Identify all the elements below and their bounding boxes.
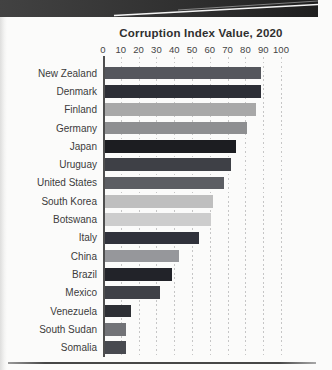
x-tick-label: 0 [100, 44, 105, 55]
category-label: South Korea [8, 196, 104, 207]
category-label: Denmark [8, 86, 104, 97]
bar [105, 140, 237, 153]
book-page: Corruption Index Value, 2020 01020304050… [0, 0, 332, 370]
bar [105, 232, 199, 245]
bar-track [104, 232, 324, 245]
bar-row: South Sudan [8, 320, 324, 338]
bar-row: New Zealand [8, 64, 324, 82]
bar-track [104, 250, 324, 263]
bar-track [104, 323, 324, 336]
bar [105, 158, 231, 171]
category-label: Brazil [8, 269, 104, 280]
category-label: China [8, 251, 104, 262]
category-label: Venezuela [8, 306, 104, 317]
page-bottom-rule [8, 362, 316, 364]
category-label: Botswana [8, 214, 104, 225]
bar [105, 286, 160, 299]
x-tick-label: 60 [205, 44, 216, 55]
bar-track [104, 305, 324, 318]
bar [105, 268, 173, 281]
bar-row: Venezuela [8, 302, 324, 320]
bar-track [104, 268, 324, 281]
category-label: Somalia [8, 342, 104, 353]
bar-row: Uruguay [8, 155, 324, 173]
category-label: Italy [8, 232, 104, 243]
category-label: Uruguay [8, 159, 104, 170]
bar [105, 323, 126, 336]
bar [105, 177, 224, 190]
bar-track [104, 85, 324, 98]
category-label: Germany [8, 123, 104, 134]
bar-track [104, 177, 324, 190]
bar-row: Italy [8, 229, 324, 247]
banner-background [0, 0, 318, 17]
bar-track [104, 158, 324, 171]
bar-row: Finland [8, 101, 324, 119]
bar-row: Brazil [8, 265, 324, 283]
bar-row: United States [8, 174, 324, 192]
x-tick-label: 30 [151, 44, 162, 55]
x-tick-label: 40 [169, 44, 180, 55]
x-tick-label: 80 [240, 44, 251, 55]
category-label: Japan [8, 141, 104, 152]
x-tick-label: 50 [187, 44, 198, 55]
bar [105, 341, 126, 354]
page-header-banner [0, 0, 318, 17]
bar-track [104, 67, 324, 80]
x-tick-label: 90 [258, 44, 269, 55]
bar [105, 103, 256, 116]
chart-title: Corruption Index Value, 2020 [103, 27, 299, 39]
bar-track [104, 341, 324, 354]
bar-rows: New ZealandDenmarkFinlandGermanyJapanUru… [8, 64, 324, 357]
bar [105, 213, 212, 226]
bar-track [104, 140, 324, 153]
x-axis-tick-labels: 0102030405060708090100 [103, 44, 281, 56]
bar-row: Denmark [8, 82, 324, 100]
x-tick-label: 10 [116, 44, 127, 55]
bar-row: Botswana [8, 210, 324, 228]
bar-row: China [8, 247, 324, 265]
bar-track [104, 122, 324, 135]
bar [105, 85, 262, 98]
bar-track [104, 213, 324, 226]
bar-row: Somalia [8, 338, 324, 356]
bar [105, 305, 132, 318]
category-label: Finland [8, 104, 104, 115]
x-tick-label: 70 [222, 44, 233, 55]
category-label: United States [8, 177, 104, 188]
x-tick-label: 100 [273, 44, 289, 55]
category-label: New Zealand [8, 68, 104, 79]
category-label: South Sudan [8, 324, 104, 335]
bar [105, 122, 247, 135]
bar [105, 195, 214, 208]
x-tick-label: 20 [133, 44, 144, 55]
bar-row: Germany [8, 119, 324, 137]
bar-row: South Korea [8, 192, 324, 210]
bar-row: Japan [8, 137, 324, 155]
bar [105, 250, 180, 263]
bar [105, 67, 262, 80]
bar-track [104, 195, 324, 208]
bar-track [104, 286, 324, 299]
bar-row: Mexico [8, 284, 324, 302]
page-edge-shading [0, 17, 7, 370]
category-label: Mexico [8, 287, 104, 298]
bar-track [104, 103, 324, 116]
